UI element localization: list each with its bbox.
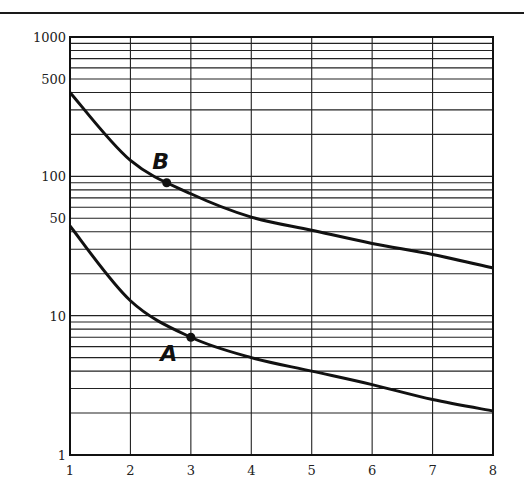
x-axis-ticks: 12345678 bbox=[66, 463, 497, 478]
point-a-marker bbox=[186, 333, 195, 342]
y-tick-label: 1000 bbox=[33, 30, 66, 45]
point-b-label: B bbox=[152, 149, 169, 174]
log-chart: 12345678 110501005001000 BA bbox=[0, 0, 524, 493]
point-a-label: A bbox=[158, 341, 177, 366]
y-axis-ticks: 110501005001000 bbox=[33, 30, 66, 463]
x-tick-label: 7 bbox=[428, 463, 436, 478]
x-tick-label: 1 bbox=[66, 463, 74, 478]
chart-annotations: BA bbox=[152, 149, 195, 367]
chart-grid bbox=[70, 37, 493, 455]
x-tick-label: 5 bbox=[308, 463, 316, 478]
curve-b bbox=[70, 92, 493, 268]
x-tick-label: 2 bbox=[126, 463, 134, 478]
chart-curves bbox=[70, 92, 493, 411]
y-tick-label: 10 bbox=[49, 309, 66, 324]
chart-axes bbox=[70, 37, 493, 455]
y-tick-label: 1 bbox=[58, 448, 66, 463]
x-tick-label: 6 bbox=[368, 463, 376, 478]
y-tick-label: 500 bbox=[41, 72, 66, 87]
x-tick-label: 3 bbox=[187, 463, 195, 478]
point-b-marker bbox=[162, 178, 171, 187]
x-tick-label: 8 bbox=[489, 463, 497, 478]
x-tick-label: 4 bbox=[247, 463, 255, 478]
plot-frame bbox=[70, 37, 493, 455]
y-tick-label: 100 bbox=[41, 169, 66, 184]
y-tick-label: 50 bbox=[49, 211, 66, 226]
